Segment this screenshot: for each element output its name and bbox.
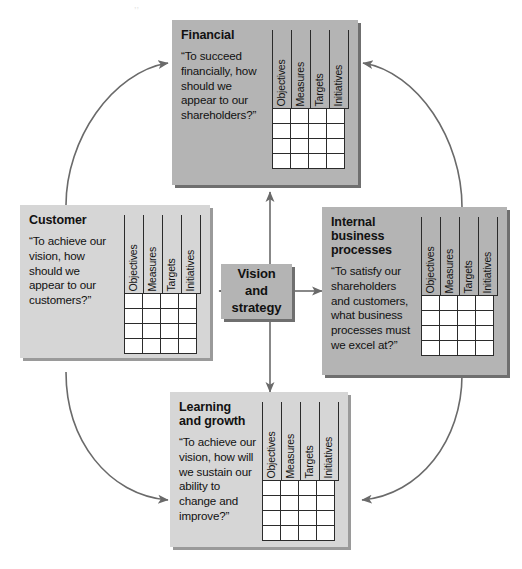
scorecard-cell[interactable] bbox=[291, 139, 309, 154]
scorecard-col-targets: Targets bbox=[460, 217, 479, 295]
scorecard-cell[interactable] bbox=[273, 124, 291, 139]
scorecard-cell[interactable] bbox=[327, 154, 345, 169]
scorecard-row bbox=[125, 339, 201, 354]
scorecard-cell[interactable] bbox=[422, 311, 440, 326]
scorecard-cell[interactable] bbox=[281, 496, 299, 511]
vision-and-strategy-label: Vision and strategy bbox=[232, 266, 282, 317]
scorecard-customer-body[interactable] bbox=[124, 293, 201, 354]
scorecard-cell[interactable] bbox=[263, 481, 281, 496]
panel-internal-business-processes[interactable]: Internal business processes “To satisfy … bbox=[322, 207, 507, 375]
scorecard-cell[interactable] bbox=[476, 296, 494, 311]
scorecard-cell[interactable] bbox=[143, 324, 161, 339]
scorecard-cell[interactable] bbox=[161, 309, 179, 324]
scorecard-cell[interactable] bbox=[422, 341, 440, 356]
scorecard-cell[interactable] bbox=[125, 324, 143, 339]
scorecard-cell[interactable] bbox=[273, 154, 291, 169]
scorecard-financial-body[interactable] bbox=[272, 108, 349, 169]
panel-customer-title: Customer bbox=[29, 213, 118, 227]
scorecard-cell[interactable] bbox=[263, 511, 281, 526]
panel-learning-and-growth[interactable]: Learning and growth “To achieve our visi… bbox=[170, 392, 348, 547]
panel-learning-title: Learning and growth bbox=[179, 400, 256, 428]
scorecard-cell[interactable] bbox=[422, 296, 440, 311]
scorecard-internal-body[interactable] bbox=[421, 295, 498, 356]
scorecard-cell[interactable] bbox=[143, 294, 161, 309]
scorecard-cell[interactable] bbox=[281, 481, 299, 496]
scorecard-col-initiatives: Initiatives bbox=[330, 30, 349, 108]
scorecard-cell[interactable] bbox=[161, 324, 179, 339]
panel-financial[interactable]: Financial “To succeed financially, how s… bbox=[172, 20, 358, 185]
scorecard-cell[interactable] bbox=[309, 124, 327, 139]
scorecard-row bbox=[125, 294, 201, 309]
scorecard-cell[interactable] bbox=[440, 296, 458, 311]
scorecard-cell[interactable] bbox=[440, 341, 458, 356]
scorecard-row bbox=[422, 311, 498, 326]
scorecard-cell[interactable] bbox=[327, 124, 345, 139]
scorecard-cell[interactable] bbox=[273, 109, 291, 124]
scorecard-cell[interactable] bbox=[299, 511, 317, 526]
scorecard-cell[interactable] bbox=[299, 496, 317, 511]
scorecard-learning[interactable]: Objectives Measures Targets Initiatives bbox=[262, 402, 339, 541]
scorecard-financial[interactable]: Objectives Measures Targets Initiatives bbox=[272, 30, 349, 169]
scorecard-cell[interactable] bbox=[161, 339, 179, 354]
scorecard-cell[interactable] bbox=[309, 154, 327, 169]
scorecard-customer[interactable]: Objectives Measures Targets Initiatives bbox=[124, 215, 201, 354]
scorecard-cell[interactable] bbox=[309, 139, 327, 154]
scorecard-cell[interactable] bbox=[125, 294, 143, 309]
arrow-internal-to-financial bbox=[363, 63, 462, 207]
scorecard-cell[interactable] bbox=[317, 481, 335, 496]
scorecard-internal[interactable]: Objectives Measures Targets Initiatives bbox=[421, 217, 498, 356]
scorecard-learning-header: Objectives Measures Targets Initiatives bbox=[262, 402, 339, 480]
scorecard-row bbox=[273, 154, 349, 169]
scorecard-cell[interactable] bbox=[179, 309, 197, 324]
scorecard-cell[interactable] bbox=[179, 324, 197, 339]
scorecard-cell[interactable] bbox=[317, 496, 335, 511]
scorecard-cell[interactable] bbox=[291, 124, 309, 139]
scorecard-cell[interactable] bbox=[458, 296, 476, 311]
vision-and-strategy-box[interactable]: Vision and strategy bbox=[221, 264, 292, 319]
scorecard-cell[interactable] bbox=[273, 139, 291, 154]
scorecard-cell[interactable] bbox=[179, 339, 197, 354]
arrow-internal-to-learning bbox=[362, 375, 462, 500]
arrow-customer-to-financial bbox=[66, 63, 168, 205]
scorecard-cell[interactable] bbox=[458, 341, 476, 356]
scorecard-cell[interactable] bbox=[263, 496, 281, 511]
scorecard-cell[interactable] bbox=[309, 109, 327, 124]
scorecard-col-objectives: Objectives bbox=[422, 217, 441, 295]
scorecard-cell[interactable] bbox=[291, 154, 309, 169]
scorecard-cell[interactable] bbox=[440, 311, 458, 326]
scorecard-cell[interactable] bbox=[179, 294, 197, 309]
scorecard-cell[interactable] bbox=[125, 309, 143, 324]
scorecard-financial-header: Objectives Measures Targets Initiatives bbox=[272, 30, 349, 108]
scorecard-cell[interactable] bbox=[291, 109, 309, 124]
scorecard-row bbox=[273, 124, 349, 139]
scorecard-col-targets: Targets bbox=[301, 402, 320, 480]
scorecard-col-objectives: Objectives bbox=[125, 215, 144, 293]
scorecard-cell[interactable] bbox=[263, 526, 281, 541]
scorecard-cell[interactable] bbox=[281, 526, 299, 541]
scorecard-learning-body[interactable] bbox=[262, 480, 339, 541]
scorecard-cell[interactable] bbox=[281, 511, 299, 526]
scorecard-cell[interactable] bbox=[476, 326, 494, 341]
panel-learning-text: Learning and growth “To achieve our visi… bbox=[179, 400, 256, 524]
scorecard-cell[interactable] bbox=[125, 339, 143, 354]
panel-financial-quote: “To succeed financially, how should we a… bbox=[181, 49, 266, 123]
scorecard-cell[interactable] bbox=[422, 326, 440, 341]
scorecard-cell[interactable] bbox=[161, 294, 179, 309]
panel-financial-text: Financial “To succeed financially, how s… bbox=[181, 28, 266, 123]
scorecard-cell[interactable] bbox=[143, 339, 161, 354]
scorecard-cell[interactable] bbox=[440, 326, 458, 341]
scorecard-cell[interactable] bbox=[458, 326, 476, 341]
scorecard-cell[interactable] bbox=[299, 481, 317, 496]
scorecard-cell[interactable] bbox=[327, 139, 345, 154]
panel-customer[interactable]: Customer “To achieve our vision, how sho… bbox=[20, 205, 210, 358]
scorecard-cell[interactable] bbox=[327, 109, 345, 124]
scorecard-cell[interactable] bbox=[143, 309, 161, 324]
scorecard-cell[interactable] bbox=[317, 526, 335, 541]
scorecard-cell[interactable] bbox=[476, 311, 494, 326]
scorecard-cell[interactable] bbox=[299, 526, 317, 541]
scorecard-cell[interactable] bbox=[476, 341, 494, 356]
scorecard-cell[interactable] bbox=[458, 311, 476, 326]
scorecard-col-initiatives: Initiatives bbox=[320, 402, 339, 480]
scorecard-row bbox=[263, 511, 339, 526]
scorecard-cell[interactable] bbox=[317, 511, 335, 526]
